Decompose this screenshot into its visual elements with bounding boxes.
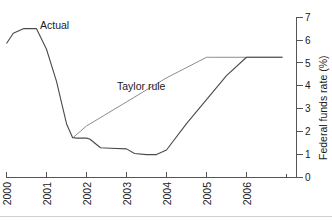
series-line-taylor-rule: [73, 57, 283, 138]
x-tick-label-2006: 2006: [241, 182, 253, 206]
annotation-actual: Actual: [40, 19, 69, 31]
y-tick-label-4: 4: [305, 80, 311, 91]
y-tick-label-0: 0: [305, 172, 311, 183]
x-tick-label-2002: 2002: [81, 182, 93, 206]
chart-container: 2000 2001 2002 2003 2004 2005 2006 0 1 2…: [0, 0, 332, 221]
y-axis-title: Federal funds rate (%): [317, 56, 329, 160]
y-tick-label-5: 5: [305, 58, 311, 69]
y-tick-label-3: 3: [305, 103, 311, 114]
x-tick-label-2003: 2003: [121, 182, 133, 206]
line-chart: 2000 2001 2002 2003 2004 2005 2006 0 1 2…: [0, 0, 332, 221]
x-tick-label-2001: 2001: [41, 182, 53, 206]
y-tick-label-7: 7: [305, 12, 311, 23]
x-axis-tick-labels: 2000 2001 2002 2003 2004 2005 2006: [1, 182, 253, 206]
y-axis-ticks: [297, 17, 303, 177]
x-axis-ticks: [7, 172, 287, 178]
y-tick-label-6: 6: [305, 35, 311, 46]
annotation-taylor-rule: Taylor rule: [117, 80, 166, 92]
y-axis-tick-labels: 0 1 2 3 4 5 6 7: [305, 12, 311, 183]
x-tick-label-2000: 2000: [1, 182, 13, 206]
x-tick-label-2004: 2004: [161, 182, 173, 206]
y-tick-label-1: 1: [305, 149, 311, 160]
y-tick-label-2: 2: [305, 126, 311, 137]
x-tick-label-2005: 2005: [201, 182, 213, 206]
